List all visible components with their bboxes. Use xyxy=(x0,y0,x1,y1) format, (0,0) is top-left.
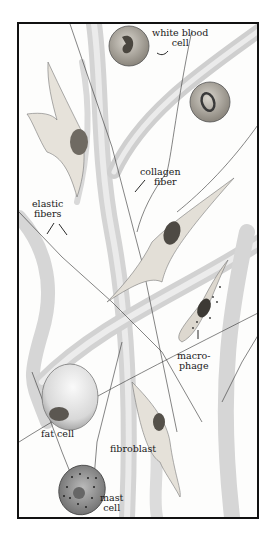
label-mast-cell: mast cell xyxy=(100,493,123,513)
fibroblast-upper xyxy=(27,62,88,197)
white-blood-cell-2 xyxy=(190,82,230,122)
label-fibroblast: fibroblast xyxy=(110,444,156,454)
label-elastic-fibers: elastic fibers xyxy=(32,199,63,219)
fat-cell xyxy=(42,364,98,430)
label-macrophage: macro- phage xyxy=(177,351,210,371)
label-collagen-fiber: collagen fiber xyxy=(140,167,181,187)
diagram-frame: white blood cell collagen fiber elastic … xyxy=(17,22,259,519)
label-fat-cell: fat cell xyxy=(41,429,74,439)
label-white-blood-cell: white blood cell xyxy=(152,28,208,48)
white-blood-cell xyxy=(109,26,149,66)
